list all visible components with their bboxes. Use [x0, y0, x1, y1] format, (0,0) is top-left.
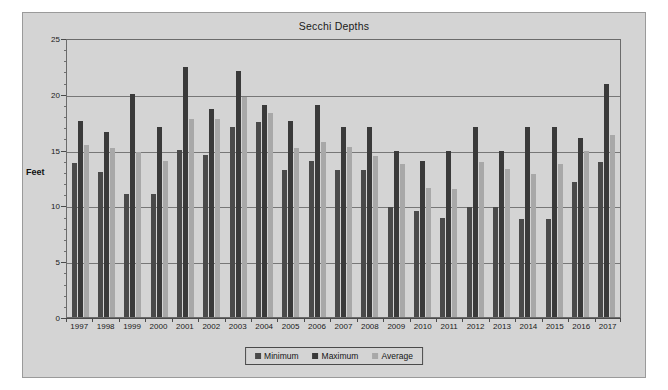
bar-group-2010 [409, 40, 435, 317]
x-tick-mark [92, 318, 93, 322]
bar-minimum-2003 [230, 127, 235, 317]
bar-group-2014 [515, 40, 541, 317]
bar-average-2010 [426, 188, 431, 317]
x-tick-mark [277, 318, 278, 322]
bar-maximum-2002 [209, 109, 214, 317]
bar-group-2008 [357, 40, 383, 317]
chart-figure: Secchi Depths 0510152025 Feet 1997199819… [22, 12, 646, 378]
legend-item-minimum[interactable]: Minimum [255, 351, 298, 361]
x-tick-label-2015: 2015 [542, 322, 568, 331]
x-tick-label-1999: 1999 [119, 322, 145, 331]
bar-maximum-1997 [78, 121, 83, 317]
bar-average-1998 [110, 148, 115, 317]
x-tick-label-2013: 2013 [489, 322, 515, 331]
bar-maximum-2015 [552, 127, 557, 317]
legend-item-maximum[interactable]: Maximum [313, 351, 359, 361]
legend-label: Minimum [264, 351, 298, 361]
x-tick-label-2002: 2002 [198, 322, 224, 331]
x-tick-label-2014: 2014 [515, 322, 541, 331]
bar-maximum-2003 [236, 71, 241, 317]
bar-maximum-2017 [604, 84, 609, 317]
bar-group-1999 [120, 40, 146, 317]
bar-average-2012 [479, 162, 484, 317]
x-tick-mark [251, 318, 252, 322]
x-tick-mark [436, 318, 437, 322]
plot-area [66, 39, 621, 318]
bar-minimum-2002 [203, 155, 208, 317]
y-tick-label-20: 20 [51, 90, 60, 99]
bar-group-2007 [330, 40, 356, 317]
bar-group-2003 [225, 40, 251, 317]
bar-group-2013 [488, 40, 514, 317]
bar-minimum-2005 [282, 170, 287, 317]
bar-minimum-1997 [72, 163, 77, 317]
bar-average-2011 [452, 189, 457, 317]
bar-minimum-2001 [177, 150, 182, 317]
bar-average-2008 [373, 156, 378, 317]
bar-average-2015 [558, 164, 563, 317]
bar-group-2005 [278, 40, 304, 317]
bar-maximum-2000 [157, 127, 162, 317]
x-tick-label-2012: 2012 [462, 322, 488, 331]
bar-group-2004 [251, 40, 277, 317]
x-axis: 1997199819992000200120022003200420052006… [66, 318, 621, 346]
x-tick-mark [620, 318, 621, 322]
bar-average-2016 [584, 151, 589, 317]
bar-average-1999 [136, 152, 141, 317]
bar-maximum-2001 [183, 67, 188, 317]
bar-minimum-1999 [124, 194, 129, 317]
bar-group-2012 [462, 40, 488, 317]
bar-minimum-1998 [98, 172, 103, 317]
bar-maximum-1999 [130, 94, 135, 317]
x-tick-label-1997: 1997 [66, 322, 92, 331]
bar-group-2015 [541, 40, 567, 317]
x-tick-mark [172, 318, 173, 322]
x-tick-mark [515, 318, 516, 322]
bar-maximum-2011 [446, 151, 451, 317]
bar-maximum-2006 [315, 105, 320, 317]
x-tick-label-2001: 2001 [172, 322, 198, 331]
bar-maximum-2012 [473, 127, 478, 317]
x-tick-label-2011: 2011 [436, 322, 462, 331]
y-tick-label-15: 15 [51, 146, 60, 155]
bar-average-2002 [215, 119, 220, 317]
bar-average-2014 [531, 174, 536, 317]
bar-maximum-2007 [341, 127, 346, 317]
bar-average-2006 [321, 142, 326, 317]
bar-minimum-2014 [519, 219, 524, 317]
bar-minimum-2012 [467, 207, 472, 317]
x-tick-mark [542, 318, 543, 322]
x-tick-mark [383, 318, 384, 322]
bar-group-2001 [172, 40, 198, 317]
y-tick-label-0: 0 [56, 314, 60, 323]
legend-item-average[interactable]: Average [372, 351, 413, 361]
x-tick-mark [489, 318, 490, 322]
x-tick-mark [225, 318, 226, 322]
bar-average-2005 [294, 148, 299, 317]
bar-maximum-2009 [394, 151, 399, 317]
bar-group-1998 [93, 40, 119, 317]
bar-group-2009 [383, 40, 409, 317]
x-tick-label-2009: 2009 [383, 322, 409, 331]
bar-minimum-2009 [388, 207, 393, 317]
bar-average-2001 [189, 119, 194, 317]
x-tick-mark [66, 318, 67, 322]
x-tick-label-2007: 2007 [330, 322, 356, 331]
x-tick-mark [462, 318, 463, 322]
x-tick-label-2006: 2006 [304, 322, 330, 331]
x-tick-mark [145, 318, 146, 322]
bar-minimum-2010 [414, 211, 419, 317]
x-tick-label-1998: 1998 [92, 322, 118, 331]
x-tick-mark [119, 318, 120, 322]
bars-layer [67, 40, 620, 317]
x-tick-labels: 1997199819992000200120022003200420052006… [66, 322, 621, 331]
x-tick-mark [410, 318, 411, 322]
bar-group-2000 [146, 40, 172, 317]
bar-group-2016 [567, 40, 593, 317]
bar-minimum-2017 [598, 162, 603, 317]
bar-minimum-2004 [256, 122, 261, 317]
bar-average-2004 [268, 113, 273, 317]
bar-group-2017 [594, 40, 620, 317]
bar-minimum-2008 [361, 170, 366, 317]
bar-maximum-2008 [367, 127, 372, 317]
